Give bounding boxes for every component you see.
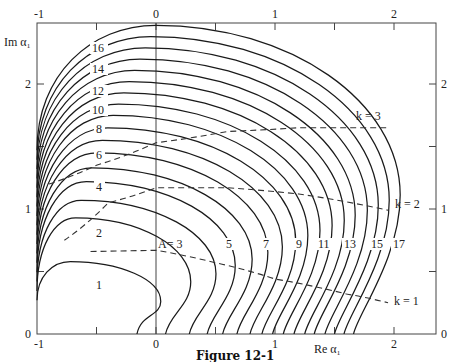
- k-curve-2: [64, 188, 388, 241]
- figure-12-1: -1012-1012012012 12456789101112131415161…: [0, 0, 451, 362]
- A-label-10: 10: [92, 103, 104, 117]
- A-label-6: 6: [96, 148, 102, 162]
- top-tick-label: 1: [272, 7, 278, 21]
- A-contour-2: [37, 218, 191, 334]
- right-tick-label: 0: [441, 327, 447, 341]
- y-axis-label: Im α₁: [4, 35, 31, 49]
- left-tick-label: 2: [25, 77, 31, 91]
- axis-ticks: -1012-1012012012: [25, 7, 447, 351]
- k2-label: k = 2: [395, 197, 420, 211]
- A-label-13: 13: [344, 237, 356, 251]
- A-contour-1: [37, 262, 161, 335]
- A-label-1: 1: [96, 278, 102, 292]
- right-tick-label: 1: [441, 202, 447, 216]
- A-label-17: 17: [393, 237, 405, 251]
- bottom-tick-label: 2: [391, 337, 397, 351]
- figure-caption: Figure 12-1: [196, 349, 274, 362]
- A-contour-10: [37, 104, 320, 334]
- right-tick-label: 2: [441, 77, 447, 91]
- left-tick-label: 0: [25, 327, 31, 341]
- A-label-8: 8: [96, 122, 102, 136]
- A-label-11: 11: [318, 237, 330, 251]
- bottom-tick-label: -1: [34, 337, 44, 351]
- top-tick-label: -1: [34, 7, 44, 21]
- A-label-2: 2: [96, 226, 102, 240]
- A3-label: A= 3: [158, 237, 182, 251]
- A-label-7: 7: [263, 237, 269, 251]
- A-contour-13: [37, 70, 355, 334]
- A-label-9: 9: [296, 237, 302, 251]
- left-tick-label: 1: [25, 202, 31, 216]
- A-label-12: 12: [92, 84, 104, 98]
- A-label-16: 16: [92, 41, 104, 55]
- k3-label: k = 3: [356, 109, 381, 123]
- x-axis-label: Re α₁: [314, 342, 341, 356]
- A-label-15: 15: [371, 237, 383, 251]
- A-label-4: 4: [96, 180, 102, 194]
- A-label-5: 5: [226, 237, 232, 251]
- A-label-14: 14: [92, 62, 104, 76]
- bottom-tick-label: 0: [153, 337, 159, 351]
- A-contour-11: [37, 93, 332, 334]
- A-contour-12: [37, 82, 344, 335]
- top-tick-label: 2: [391, 7, 397, 21]
- top-tick-label: 0: [153, 7, 159, 21]
- k1-label: k = 1: [394, 294, 419, 308]
